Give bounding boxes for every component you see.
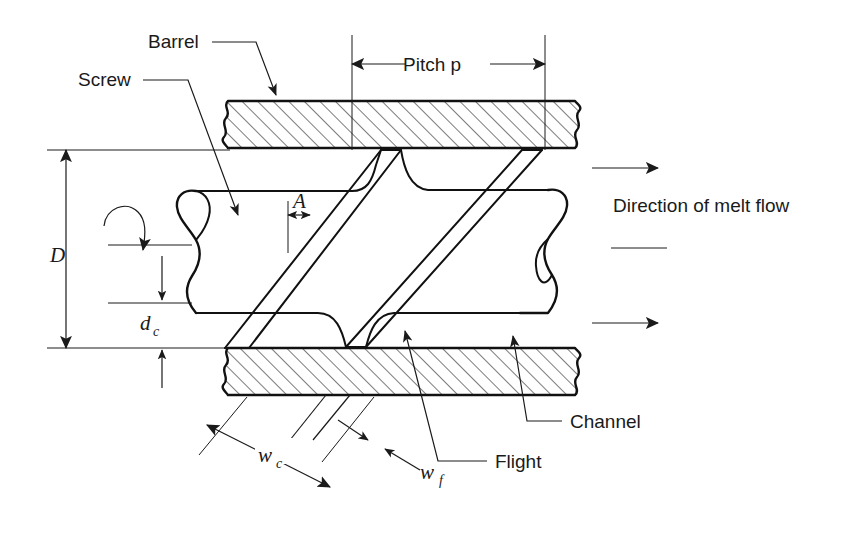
channel-width-subscript: c [276, 456, 283, 471]
top-barrel-hatch-fill [223, 101, 581, 148]
diameter-label: D [49, 243, 65, 267]
screw-label: Screw [78, 69, 131, 90]
flight-width-label: w [420, 460, 434, 484]
flight-land-label: A [291, 189, 306, 213]
barrel-label: Barrel [148, 31, 199, 52]
extruder-screw-diagram: D d c Pitch p A Barrel Screw Dir [0, 0, 841, 543]
melt-flow-label: Direction of melt flow [613, 195, 790, 216]
pitch-label: Pitch p [403, 54, 461, 75]
channel-depth-label: d [140, 311, 151, 335]
flight-label: Flight [495, 451, 542, 472]
channel-label: Channel [570, 411, 641, 432]
bottom-barrel-section [223, 348, 581, 395]
channel-width-label: w [258, 443, 272, 467]
channel-depth-subscript: c [153, 324, 160, 339]
bottom-barrel-hatch-fill [223, 348, 581, 395]
top-barrel-section [223, 101, 581, 148]
